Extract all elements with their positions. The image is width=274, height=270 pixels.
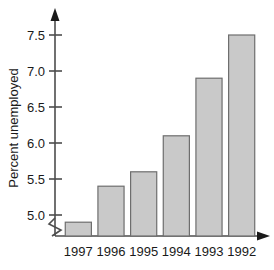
x-axis-arrow-icon bbox=[257, 232, 270, 241]
bar-1996 bbox=[98, 186, 124, 236]
y-axis-arrow-icon bbox=[51, 8, 60, 21]
x-tick-label-1994: 1994 bbox=[162, 244, 191, 259]
x-tick-label-1993: 1993 bbox=[195, 244, 224, 259]
x-tick-labels: 1997 1996 1995 1994 1993 1992 bbox=[64, 244, 256, 259]
y-tick-label-6-0: 6.0 bbox=[27, 136, 45, 151]
y-tick-label-7-5: 7.5 bbox=[27, 28, 45, 43]
bar-1992 bbox=[229, 35, 255, 236]
chart-canvas: 7.5 7.0 6.5 6.0 5.5 5.0 Percent unemploy… bbox=[0, 0, 274, 270]
bar-1994 bbox=[163, 136, 189, 236]
y-tick-labels: 7.5 7.0 6.5 6.0 5.5 5.0 bbox=[27, 28, 45, 223]
x-tick-label-1996: 1996 bbox=[97, 244, 126, 259]
bar-1995 bbox=[131, 172, 157, 236]
y-axis-title: Percent unemployed bbox=[6, 68, 21, 187]
unemployment-bar-chart: 7.5 7.0 6.5 6.0 5.5 5.0 Percent unemploy… bbox=[0, 0, 274, 270]
y-tick-label-5-5: 5.5 bbox=[27, 172, 45, 187]
y-tick-label-7-0: 7.0 bbox=[27, 64, 45, 79]
x-tick-label-1995: 1995 bbox=[129, 244, 158, 259]
x-tick-label-1997: 1997 bbox=[64, 244, 93, 259]
bar-1993 bbox=[196, 78, 222, 236]
bars-group bbox=[65, 35, 254, 236]
y-tick-label-6-5: 6.5 bbox=[27, 100, 45, 115]
y-tick-label-5-0: 5.0 bbox=[27, 208, 45, 223]
y-axis bbox=[51, 8, 60, 236]
bar-1997 bbox=[65, 222, 91, 236]
x-tick-label-1992: 1992 bbox=[227, 244, 256, 259]
